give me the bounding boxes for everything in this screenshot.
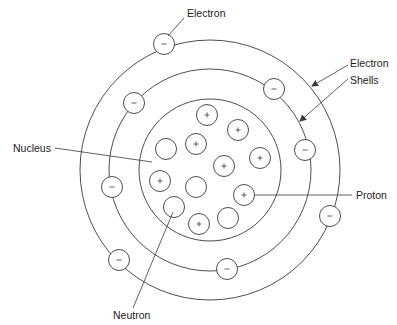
proton	[214, 156, 235, 177]
neutron-circle	[164, 197, 185, 218]
label-electron-shells-line2: Shells	[350, 74, 379, 86]
proton	[250, 148, 271, 169]
neutron-leader-line	[133, 212, 173, 308]
electron	[264, 79, 285, 100]
neutron	[164, 197, 185, 218]
proton	[186, 134, 207, 155]
label-electron: Electron	[187, 7, 226, 19]
shell-arrow-middle	[300, 79, 348, 121]
atom-diagram: Electron Electron Shells Nucleus Proton …	[0, 0, 397, 325]
electron	[154, 34, 175, 55]
label-proton: Proton	[356, 189, 387, 201]
electron	[102, 177, 123, 198]
nucleus-leader-line	[55, 148, 152, 162]
electron	[109, 250, 130, 271]
electron	[320, 206, 341, 227]
electron-leader-line	[168, 18, 184, 36]
neutron-circle	[186, 177, 207, 198]
electron	[217, 259, 238, 280]
proton	[197, 105, 218, 126]
shell-arrow-outer	[312, 65, 348, 86]
proton	[228, 120, 249, 141]
neutron-circle	[156, 139, 177, 160]
neutron	[186, 177, 207, 198]
electron	[124, 93, 145, 114]
label-nucleus: Nucleus	[13, 142, 51, 154]
electron	[295, 140, 316, 161]
proton	[150, 171, 171, 192]
proton	[234, 185, 255, 206]
neutron-circle	[218, 208, 239, 229]
neutron	[218, 208, 239, 229]
label-neutron: Neutron	[113, 309, 151, 321]
neutron	[156, 139, 177, 160]
proton	[189, 214, 210, 235]
atom-diagram-canvas: Electron Electron Shells Nucleus Proton …	[0, 0, 397, 325]
label-electron-shells-line1: Electron	[350, 57, 389, 69]
